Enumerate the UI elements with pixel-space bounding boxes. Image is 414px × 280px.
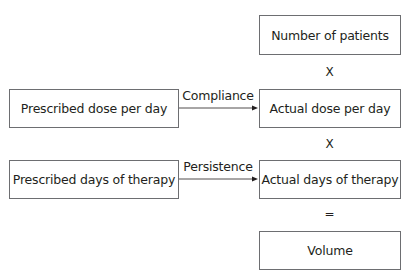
node-label: Actual days of therapy <box>262 172 399 187</box>
node-prescribed-dose-per-day: Prescribed dose per day <box>9 89 179 128</box>
node-label: Prescribed days of therapy <box>13 172 175 187</box>
node-label: Actual dose per day <box>270 101 391 116</box>
persistence-arrow <box>178 177 258 182</box>
node-label: Prescribed dose per day <box>21 101 167 116</box>
edge-label-persistence: Persistence <box>182 159 254 174</box>
multiply-operator: X <box>259 65 400 79</box>
node-number-of-patients: Number of patients <box>259 15 401 55</box>
node-volume: Volume <box>259 231 401 270</box>
multiply-operator: X <box>259 137 400 151</box>
node-label: Volume <box>307 243 352 258</box>
node-label: Number of patients <box>271 28 389 43</box>
node-actual-days-of-therapy: Actual days of therapy <box>259 160 401 199</box>
node-actual-dose-per-day: Actual dose per day <box>259 89 401 128</box>
edge-label-compliance: Compliance <box>182 88 254 103</box>
compliance-arrow <box>179 106 258 111</box>
equals-operator: = <box>259 207 400 221</box>
node-prescribed-days-of-therapy: Prescribed days of therapy <box>9 160 179 199</box>
